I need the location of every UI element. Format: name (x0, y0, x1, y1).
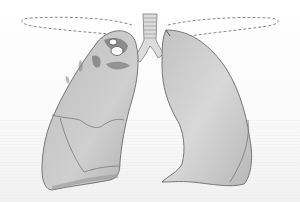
lungs-figure (0, 0, 300, 202)
cavity-2 (111, 47, 123, 56)
cavity-1 (109, 39, 117, 45)
lung-illustration: Illustration of human lungs with trachea (0, 0, 300, 202)
trachea (134, 14, 164, 62)
lesion-4 (66, 76, 70, 84)
